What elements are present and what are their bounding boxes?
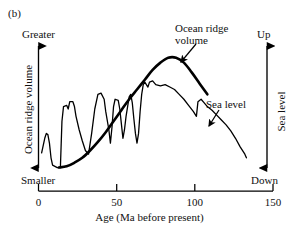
panel-label: (b) [8, 8, 21, 19]
right-axis-bottom-label: Down [251, 175, 278, 186]
x-axis [39, 184, 274, 191]
figure-panel-b: (b) Greater Smaller Ocean ridge volume U… [0, 0, 299, 232]
sea-level-annotation-label: Sea level [206, 99, 246, 110]
x-tick-label-50: 50 [111, 196, 122, 208]
left-axis-top-label: Greater [22, 29, 55, 40]
right-axis-title: Sea level [276, 52, 287, 172]
series-sea-level [42, 81, 247, 168]
left-axis-bottom-label: Smaller [21, 175, 55, 186]
left-axis-title: Ocean ridge volume [23, 50, 34, 170]
ocean-ridge-annotation-label: Ocean ridge volume [175, 22, 241, 47]
right-axis-top-label: Up [257, 29, 270, 40]
x-axis-title: Age (Ma before present) [0, 212, 299, 223]
ocean-ridge-annotation-arrow [181, 44, 196, 62]
x-tick-label-100: 100 [187, 196, 204, 208]
x-tick-label-150: 150 [265, 196, 282, 208]
x-tick-label-0: 0 [36, 196, 42, 208]
